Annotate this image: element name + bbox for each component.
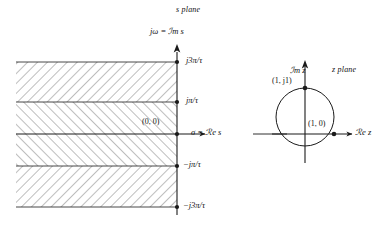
tick-dot-neg-jpi: [175, 164, 179, 168]
strip-lower: [16, 166, 177, 207]
tick-label-jpi-over-tau: jπ/τ: [186, 96, 198, 105]
tick-label-j3pi-over-tau: j3π/τ: [186, 56, 202, 65]
figure-canvas: [0, 0, 389, 227]
s-imaginary-axis-label: jω = ℐm s: [150, 27, 184, 36]
z-point-label-1-0: (1, 0): [308, 120, 325, 128]
z-plane-title: z plane: [332, 66, 356, 74]
tick-dot-j3pi: [175, 60, 179, 64]
z-real-axis-label: ℛe z: [355, 128, 371, 137]
tick-dot-origin: [175, 132, 179, 136]
sz-plane-mapping-figure: s plane jω = ℐm s σ = ℛe s (0, 0) j3π/τ …: [0, 0, 389, 227]
s-origin-label: (0, 0): [142, 118, 159, 126]
z-imaginary-axis-label: ℐm z: [290, 66, 306, 75]
s-plane-title-text: s plane: [176, 5, 200, 14]
tick-dot-neg-j3pi: [175, 205, 179, 209]
s-real-axis-label: σ = ℛe s: [191, 128, 221, 137]
point-dot-1-j1: [303, 86, 308, 91]
tick-dot-jpi: [175, 100, 179, 104]
z-point-label-1-j1: (1, j1): [272, 77, 292, 85]
strip-upper: [16, 62, 177, 102]
s-plane-title: s plane: [176, 6, 200, 14]
tick-label-neg-j3pi-over-tau: −j3π/τ: [183, 201, 205, 210]
s-imaginary-axis-arrow: [174, 44, 181, 53]
point-dot-1-0: [332, 132, 337, 137]
tick-label-neg-jpi-over-tau: −jπ/τ: [183, 160, 201, 169]
z-plane-title-text: z plane: [332, 65, 356, 74]
